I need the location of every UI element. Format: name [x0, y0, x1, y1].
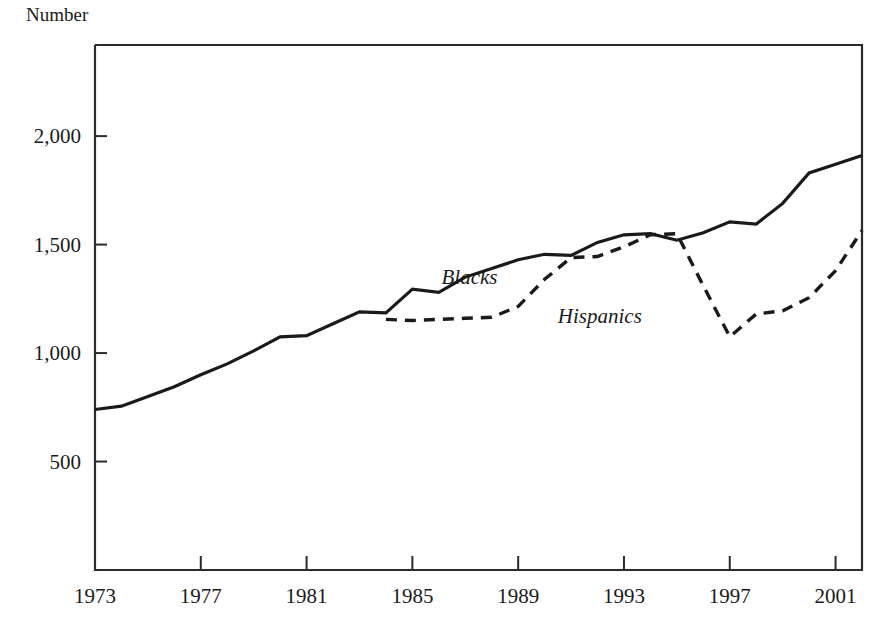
y-tick-label-1500: 1,500 [34, 232, 81, 257]
x-axis-ticks [95, 556, 836, 570]
x-tick-label-1993: 1993 [603, 584, 645, 609]
y-axis-ticks [95, 136, 107, 461]
plot-frame [95, 45, 862, 570]
series-label-hispanics: Hispanics [558, 304, 642, 329]
chart-figure: Number 5001,0001,5002,000197319771981198… [0, 0, 886, 631]
y-tick-label-500: 500 [50, 449, 82, 474]
axis-frame [95, 45, 862, 570]
x-tick-label-2001: 2001 [815, 584, 857, 609]
x-tick-label-1985: 1985 [391, 584, 433, 609]
x-tick-label-1989: 1989 [497, 584, 539, 609]
x-tick-label-1977: 1977 [180, 584, 222, 609]
x-tick-label-1997: 1997 [709, 584, 751, 609]
chart-plot-area [0, 0, 886, 631]
x-tick-label-1981: 1981 [286, 584, 328, 609]
series-label-blacks: Blacks [441, 265, 497, 290]
y-tick-label-1000: 1,000 [34, 341, 81, 366]
x-tick-label-1973: 1973 [74, 584, 116, 609]
y-tick-label-2000: 2,000 [34, 124, 81, 149]
